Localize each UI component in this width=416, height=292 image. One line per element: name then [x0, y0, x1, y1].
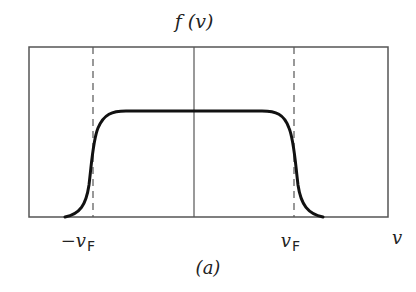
tick-label-pos-vf: v F [281, 230, 300, 254]
plot-frame [29, 47, 388, 217]
tick-label-neg-vf: −v F [61, 230, 95, 254]
x-axis-label: v [392, 227, 402, 248]
y-axis-label: f (v) [173, 10, 214, 32]
svg-text:v: v [281, 230, 291, 251]
svg-text:−v: −v [61, 230, 86, 251]
distribution-diagram: f (v) v −v F v F (a) [0, 0, 416, 292]
svg-text:F: F [292, 238, 300, 254]
caption: (a) [196, 257, 221, 278]
svg-text:F: F [87, 238, 95, 254]
